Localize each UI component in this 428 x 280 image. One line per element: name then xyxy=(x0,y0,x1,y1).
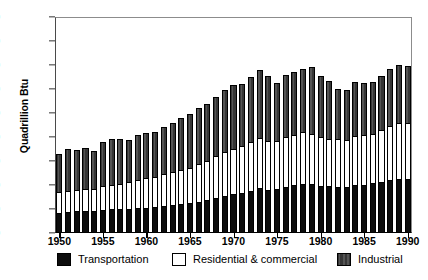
bar-segment-industrial-1990 xyxy=(405,66,411,124)
bar-1981 xyxy=(326,81,332,233)
bar-1989 xyxy=(396,65,402,233)
bar-segment-industrial-1975 xyxy=(274,83,280,141)
stacked-bar-chart: Quadrillion Btu 0102030405060708090 1950… xyxy=(0,0,428,280)
bar-segment-residential-commercial-1985 xyxy=(361,135,367,184)
bar-1951 xyxy=(65,149,71,233)
bar-1959 xyxy=(135,135,141,233)
bar-1968 xyxy=(213,97,219,233)
legend-item-transportation: Transportation xyxy=(57,253,149,266)
bar-segment-transportation-1986 xyxy=(370,183,376,233)
bar-1956 xyxy=(109,139,115,233)
bar-segment-residential-commercial-1970 xyxy=(230,149,236,195)
bar-1990 xyxy=(405,66,411,233)
bar-segment-industrial-1964 xyxy=(178,118,184,170)
bar-segment-industrial-1965 xyxy=(187,114,193,168)
bar-segment-transportation-1967 xyxy=(204,200,210,233)
bar-1987 xyxy=(378,76,384,233)
bar-segment-transportation-1955 xyxy=(100,210,106,233)
bar-segment-transportation-1959 xyxy=(135,208,141,233)
bar-segment-industrial-1982 xyxy=(335,89,341,140)
bar-segment-residential-commercial-1974 xyxy=(265,141,271,189)
bar-segment-residential-commercial-1990 xyxy=(405,123,411,179)
bar-segment-residential-commercial-1951 xyxy=(65,191,71,212)
bar-segment-transportation-1951 xyxy=(65,212,71,233)
bar-segment-transportation-1954 xyxy=(91,211,97,233)
bar-1967 xyxy=(204,104,210,233)
bar-segment-industrial-1954 xyxy=(91,151,97,189)
bar-1970 xyxy=(230,85,236,233)
legend-label-industrial: Industrial xyxy=(358,254,403,265)
bar-segment-industrial-1955 xyxy=(100,142,106,187)
bar-1965 xyxy=(187,114,193,233)
bar-segment-residential-commercial-1981 xyxy=(326,139,332,186)
bar-1974 xyxy=(265,76,271,233)
bar-segment-residential-commercial-1950 xyxy=(56,192,62,213)
bar-segment-transportation-1973 xyxy=(257,188,263,233)
bar-segment-residential-commercial-1986 xyxy=(370,134,376,183)
chart-legend: Transportation Residential & commercial … xyxy=(0,253,428,275)
bar-segment-transportation-1966 xyxy=(196,202,202,233)
bar-segment-industrial-1961 xyxy=(152,132,158,176)
bar-segment-transportation-1964 xyxy=(178,204,184,233)
bar-segment-industrial-1983 xyxy=(344,90,350,139)
bar-1979 xyxy=(309,67,315,233)
bar-segment-transportation-1963 xyxy=(170,205,176,233)
bar-segment-industrial-1984 xyxy=(352,82,358,136)
bar-segment-industrial-1958 xyxy=(126,140,132,182)
bar-segment-transportation-1987 xyxy=(378,182,384,233)
bar-segment-industrial-1960 xyxy=(143,133,149,178)
bar-segment-residential-commercial-1958 xyxy=(126,182,132,209)
bar-segment-industrial-1980 xyxy=(318,76,324,136)
bar-segment-residential-commercial-1971 xyxy=(239,146,245,193)
bar-1964 xyxy=(178,118,184,233)
bar-segment-transportation-1956 xyxy=(109,209,115,233)
bar-segment-residential-commercial-1989 xyxy=(396,123,402,179)
bar-segment-residential-commercial-1954 xyxy=(91,189,97,211)
bar-segment-industrial-1989 xyxy=(396,65,402,123)
bar-segment-industrial-1973 xyxy=(257,70,263,139)
bar-segment-transportation-1983 xyxy=(344,187,350,233)
x-tick-label-1970: 1970 xyxy=(212,236,256,247)
bar-segment-industrial-1950 xyxy=(56,154,62,192)
x-tick-label-1955: 1955 xyxy=(81,236,125,247)
bar-segment-residential-commercial-1957 xyxy=(117,184,123,209)
bar-segment-residential-commercial-1967 xyxy=(204,161,210,201)
bar-segment-transportation-1957 xyxy=(117,209,123,233)
bar-segment-transportation-1970 xyxy=(230,194,236,233)
legend-label-residential-commercial: Residential & commercial xyxy=(193,254,317,265)
bar-1966 xyxy=(196,107,202,233)
bar-1952 xyxy=(74,150,80,233)
bar-segment-transportation-1962 xyxy=(161,206,167,233)
bar-segment-industrial-1966 xyxy=(196,108,202,165)
bar-1971 xyxy=(239,84,245,233)
bar-segment-transportation-1965 xyxy=(187,203,193,233)
bar-segment-transportation-1978 xyxy=(300,184,306,233)
bar-segment-residential-commercial-1977 xyxy=(291,135,297,186)
bar-segment-residential-commercial-1984 xyxy=(352,136,358,185)
bar-segment-transportation-1961 xyxy=(152,207,158,233)
bar-1953 xyxy=(82,148,88,233)
bar-segment-transportation-1969 xyxy=(222,196,228,233)
bar-segment-industrial-1951 xyxy=(65,149,71,191)
bar-segment-residential-commercial-1956 xyxy=(109,185,115,210)
x-tick-label-1965: 1965 xyxy=(168,236,212,247)
bar-segment-transportation-1968 xyxy=(213,198,219,233)
bar-1978 xyxy=(300,69,306,233)
dark-hatched-swatch-icon xyxy=(337,253,351,266)
x-tick-label-1950: 1950 xyxy=(37,236,81,247)
bar-segment-transportation-1989 xyxy=(396,179,402,233)
legend-item-residential-commercial: Residential & commercial xyxy=(172,253,317,266)
bar-1963 xyxy=(170,123,176,233)
x-tick-label-1960: 1960 xyxy=(124,236,168,247)
bar-segment-industrial-1977 xyxy=(291,72,297,135)
legend-item-industrial: Industrial xyxy=(337,253,403,266)
bar-1988 xyxy=(387,69,393,233)
bar-segment-transportation-1981 xyxy=(326,186,332,233)
bar-segment-residential-commercial-1988 xyxy=(387,126,393,180)
bar-segment-industrial-1970 xyxy=(230,85,236,148)
bar-segment-residential-commercial-1982 xyxy=(335,139,341,187)
solid-black-swatch-icon xyxy=(57,253,71,266)
bar-1985 xyxy=(361,83,367,233)
bar-segment-residential-commercial-1953 xyxy=(82,189,88,211)
bar-segment-industrial-1981 xyxy=(326,81,332,139)
